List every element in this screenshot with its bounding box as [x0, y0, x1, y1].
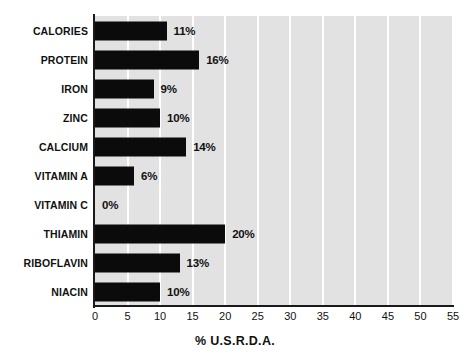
category-labels: CALORIESPROTEINIRONZINCCALCIUMVITAMIN AV…	[0, 16, 88, 306]
bar-row: 10%	[95, 103, 453, 132]
bar-value-label: 10%	[167, 112, 189, 124]
x-tick-label: 20	[219, 310, 231, 322]
bar-row: 10%	[95, 277, 453, 306]
x-tick-label: 40	[349, 310, 361, 322]
bar	[95, 50, 199, 69]
category-label: THIAMIN	[44, 228, 88, 240]
category-label: CALCIUM	[39, 141, 88, 153]
bar	[95, 108, 160, 127]
bar-value-label: 13%	[187, 257, 209, 269]
x-tick-label: 50	[414, 310, 426, 322]
bar-value-label: 6%	[141, 170, 157, 182]
bar-value-label: 11%	[174, 25, 196, 37]
x-tick-label: 30	[284, 310, 296, 322]
x-tick-label: 35	[317, 310, 329, 322]
bar-row: 20%	[95, 219, 453, 248]
category-label: VITAMIN A	[35, 170, 88, 182]
bar-value-label: 14%	[193, 141, 215, 153]
category-label: CALORIES	[33, 25, 88, 37]
bar-rows: 11%16%9%10%14%6%0%20%13%10%	[95, 16, 453, 306]
bar-chart: 11%16%9%10%14%6%0%20%13%10% CALORIESPROT…	[0, 0, 470, 363]
bar-value-label: 0%	[102, 199, 118, 211]
bar-value-label: 9%	[161, 83, 177, 95]
bar	[95, 79, 154, 98]
bar-row: 16%	[95, 45, 453, 74]
y-axis-line	[93, 14, 95, 308]
category-label: IRON	[61, 83, 88, 95]
bar	[95, 224, 225, 243]
x-tick-label: 45	[382, 310, 394, 322]
x-tick-label: 15	[187, 310, 199, 322]
bar	[95, 21, 167, 40]
x-axis-title: % U.S.R.D.A.	[0, 334, 470, 348]
x-tick-label: 10	[154, 310, 166, 322]
bar-row: 14%	[95, 132, 453, 161]
category-label: PROTEIN	[41, 54, 88, 66]
bar-value-label: 16%	[206, 54, 228, 66]
bar-value-label: 10%	[167, 286, 189, 298]
bar-row: 6%	[95, 161, 453, 190]
x-tick-label: 25	[252, 310, 264, 322]
bar	[95, 253, 180, 272]
bar-row: 13%	[95, 248, 453, 277]
x-tick-label: 0	[92, 310, 98, 322]
category-label: VITAMIN C	[34, 199, 88, 211]
x-tick-label: 5	[124, 310, 130, 322]
bar-row: 11%	[95, 16, 453, 45]
bar	[95, 282, 160, 301]
x-axis-line	[93, 305, 454, 307]
plot-area: 11%16%9%10%14%6%0%20%13%10%	[95, 16, 453, 306]
bar-row: 0%	[95, 190, 453, 219]
category-label: ZINC	[63, 112, 88, 124]
bar	[95, 137, 186, 156]
category-label: RIBOFLAVIN	[24, 257, 88, 269]
x-axis-ticks: 0510152025303540455055	[0, 310, 470, 328]
bar-row: 9%	[95, 74, 453, 103]
x-tick-label: 55	[447, 310, 459, 322]
category-label: NIACIN	[51, 286, 88, 298]
bar	[95, 166, 134, 185]
bar-value-label: 20%	[232, 228, 254, 240]
